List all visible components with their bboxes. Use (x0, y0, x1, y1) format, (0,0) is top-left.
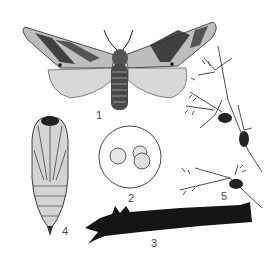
label-eggs: 2 (128, 193, 134, 204)
pupa-figure (32, 116, 68, 236)
illustration-drawing (0, 0, 280, 257)
label-adult-moth: 1 (96, 110, 102, 121)
illustration-plate: 1 2 3 4 5 (0, 0, 280, 257)
eggs-figure (99, 126, 161, 188)
adult-moth-figure (23, 22, 216, 110)
cocoons-on-twig-figure (180, 46, 262, 208)
larva-figure (85, 202, 252, 244)
label-cocoons: 5 (221, 191, 227, 202)
label-pupa: 4 (62, 226, 68, 237)
label-larva: 3 (151, 238, 157, 249)
